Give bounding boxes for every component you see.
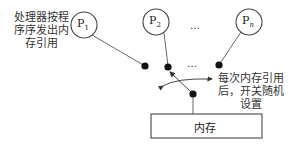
processor-p1-label: P1 (77, 17, 89, 32)
memory-label: 内存 (194, 119, 216, 135)
annotation-right: 每次内存引用 后，开关随机 设置 (214, 72, 288, 111)
pn-link (219, 32, 241, 65)
switch-node-1 (141, 62, 148, 69)
p1-link (92, 35, 145, 66)
ellipsis-bottom: … (187, 58, 198, 69)
annotation-left: 处理器按程 序序发出内 存引用 (10, 11, 72, 50)
switch-arm (170, 72, 193, 94)
processor-p2-label: P2 (149, 14, 161, 29)
random-switch-arrow (163, 79, 212, 86)
switch-pivot-node (189, 90, 196, 97)
p2-link (164, 33, 168, 66)
switch-node-2 (164, 63, 171, 70)
ellipsis-top: … (190, 20, 201, 31)
switch-node-n (215, 61, 222, 68)
processor-pn-label: Pn (242, 14, 254, 29)
